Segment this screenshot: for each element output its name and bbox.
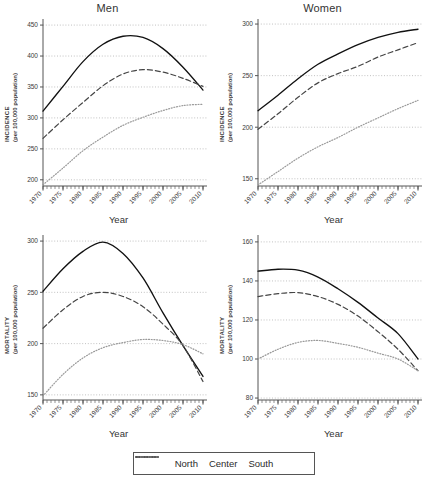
x-tick-label: 2000 <box>148 189 163 204</box>
plot-women-incidence: 1502002503001970197519801985199019952000… <box>215 0 430 230</box>
legend-label-north: North <box>175 458 198 469</box>
x-tick-label: 1990 <box>108 403 123 418</box>
series-line-center <box>258 293 418 371</box>
y-tick-label: 250 <box>242 72 253 79</box>
x-tick-label: 1970 <box>243 189 258 204</box>
y-tick-label: 120 <box>242 316 253 323</box>
x-tick-label: 1985 <box>303 189 318 204</box>
x-tick-label: 1975 <box>48 189 63 204</box>
y-tick-label: 250 <box>27 145 38 152</box>
legend-label-south: South <box>248 458 273 469</box>
series-line-north <box>43 36 203 112</box>
panel-women-mortality: MORTALITY (per 100,000 population) 80100… <box>215 230 430 445</box>
plot-men-mortality: 1502002503001970197519801985199019952000… <box>0 230 215 445</box>
y-tick-label: 200 <box>242 124 253 131</box>
x-tick-label: 1980 <box>283 403 298 418</box>
panel-men-incidence: Men INCIDENCE (per 100,000 population) 2… <box>0 0 215 230</box>
series-line-center <box>43 70 203 139</box>
chart-legend: North Center South <box>133 452 315 475</box>
x-tick-label: 2000 <box>363 403 378 418</box>
x-tick-label: 1985 <box>88 189 103 204</box>
y-tick-label: 300 <box>242 20 253 27</box>
x-tick-label: 1995 <box>343 403 358 418</box>
x-tick-label: 2010 <box>188 403 203 418</box>
y-tick-label: 300 <box>27 114 38 121</box>
x-tick-label: 1985 <box>88 403 103 418</box>
y-tick-label: 450 <box>27 21 38 28</box>
y-tick-label: 300 <box>27 237 38 244</box>
series-line-south <box>258 100 418 185</box>
y-tick-label: 400 <box>27 52 38 59</box>
y-tick-label: 140 <box>242 277 253 284</box>
x-axis-label-women-incidence: Year <box>237 214 430 225</box>
y-tick-label: 150 <box>27 391 38 398</box>
x-tick-label: 2010 <box>188 189 203 204</box>
x-axis-label-men-incidence: Year <box>22 214 215 225</box>
x-tick-label: 1995 <box>128 403 143 418</box>
x-tick-label: 1975 <box>263 189 278 204</box>
x-tick-label: 1980 <box>283 189 298 204</box>
y-tick-label: 100 <box>242 355 253 362</box>
x-tick-label: 1995 <box>343 189 358 204</box>
y-tick-label: 200 <box>27 176 38 183</box>
x-tick-label: 1975 <box>48 403 63 418</box>
legend-item-center: Center <box>209 458 238 469</box>
x-tick-label: 1990 <box>323 189 338 204</box>
series-line-center <box>43 292 203 381</box>
x-tick-label: 1970 <box>28 189 43 204</box>
y-tick-label: 80 <box>246 394 254 401</box>
x-tick-label: 1980 <box>68 403 83 418</box>
y-tick-label: 250 <box>27 289 38 296</box>
x-tick-label: 1995 <box>128 189 143 204</box>
x-tick-label: 2005 <box>168 403 183 418</box>
legend-swatch-dotted <box>134 453 160 461</box>
plot-women-mortality: 8010012014016019701975198019851990199520… <box>215 230 430 445</box>
x-tick-label: 2010 <box>403 189 418 204</box>
x-tick-label: 2005 <box>383 189 398 204</box>
x-tick-label: 2005 <box>168 189 183 204</box>
y-tick-label: 150 <box>242 175 253 182</box>
plot-men-incidence: 2002503003504004501970197519801985199019… <box>0 0 215 230</box>
legend-item-south: South <box>248 458 273 469</box>
panel-men-mortality: MORTALITY (per 100,000 population) 15020… <box>0 230 215 445</box>
x-tick-label: 2010 <box>403 403 418 418</box>
y-tick-label: 350 <box>27 83 38 90</box>
series-line-north <box>43 242 203 376</box>
x-tick-label: 1990 <box>323 403 338 418</box>
y-tick-label: 160 <box>242 238 253 245</box>
series-line-north <box>258 29 418 110</box>
legend-item-north: North <box>175 458 198 469</box>
legend-label-center: Center <box>209 458 238 469</box>
series-line-center <box>258 43 418 130</box>
panel-women-incidence: Women INCIDENCE (per 100,000 population)… <box>215 0 430 230</box>
x-tick-label: 1970 <box>28 403 43 418</box>
chart-grid: Men INCIDENCE (per 100,000 population) 2… <box>0 0 430 445</box>
series-line-south <box>43 339 203 396</box>
x-tick-label: 2000 <box>148 403 163 418</box>
x-tick-label: 1985 <box>303 403 318 418</box>
x-tick-label: 2005 <box>383 403 398 418</box>
x-axis-label-women-mortality: Year <box>237 428 430 439</box>
y-tick-label: 200 <box>27 340 38 347</box>
x-tick-label: 1975 <box>263 403 278 418</box>
x-tick-label: 2000 <box>363 189 378 204</box>
x-tick-label: 1980 <box>68 189 83 204</box>
x-tick-label: 1990 <box>108 189 123 204</box>
x-tick-label: 1970 <box>243 403 258 418</box>
x-axis-label-men-mortality: Year <box>22 428 215 439</box>
